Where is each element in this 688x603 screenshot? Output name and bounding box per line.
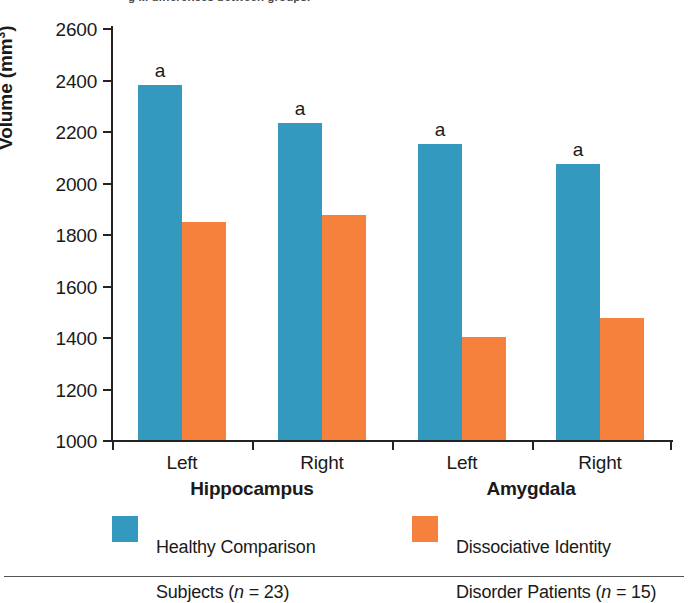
x-axis-label-amygdala-left: Left: [412, 452, 512, 474]
y-tick-label-2600: 2600: [56, 19, 97, 41]
y-axis-title-tail: ): [0, 26, 16, 32]
bar-healthy-amygdala-right[interactable]: [556, 164, 600, 440]
y-tick-1200: 1200: [103, 389, 112, 391]
bar-healthy-hippocampus-left[interactable]: [138, 85, 182, 440]
legend-label-healthy: Healthy Comparison Subjects (n = 23): [156, 513, 315, 603]
bar-healthy-amygdala-left[interactable]: [418, 144, 462, 440]
y-tick-label-2000: 2000: [56, 174, 97, 196]
y-tick-2600: 2600: [103, 28, 112, 30]
legend-label-healthy-line2-pre: Subjects (: [156, 582, 234, 602]
x-axis-label-amygdala-right: Right: [550, 452, 650, 474]
y-tick-2200: 2200: [103, 131, 112, 133]
significance-mark-hippocampus-right: a: [278, 99, 322, 118]
legend-label-healthy-line1: Healthy Comparison: [156, 537, 315, 557]
legend-entry-did[interactable]: Dissociative Identity Disorder Patients …: [412, 513, 656, 603]
bar-did-amygdala-right[interactable]: [600, 318, 644, 440]
legend-swatch-healthy: [112, 516, 138, 542]
significance-mark-hippocampus-left: a: [138, 61, 182, 80]
y-axis-title: Volume (mm3): [0, 26, 17, 150]
y-tick-2000: 2000: [103, 183, 112, 185]
y-tick-label-2200: 2200: [56, 122, 97, 144]
legend-label-healthy-n: n: [234, 582, 244, 602]
legend-label-did: Dissociative Identity Disorder Patients …: [456, 513, 656, 603]
y-tick-label-1600: 1600: [56, 277, 97, 299]
legend-label-did-n: n: [601, 582, 611, 602]
legend-label-did-line1: Dissociative Identity: [456, 537, 611, 557]
x-tick-4: [670, 440, 672, 450]
bar-did-hippocampus-left[interactable]: [182, 222, 226, 440]
y-tick-label-1200: 1200: [56, 380, 97, 402]
y-axis-title-main: Volume (mm: [0, 38, 16, 150]
y-tick-label-1800: 1800: [56, 225, 97, 247]
y-axis-title-superscript: 3: [0, 32, 8, 39]
bar-did-hippocampus-right[interactable]: [322, 215, 366, 440]
legend-label-healthy-line2-post: = 23): [244, 582, 289, 602]
y-tick-label-2400: 2400: [56, 71, 97, 93]
x-tick-3: [532, 440, 534, 450]
significance-mark-amygdala-left: a: [418, 120, 462, 139]
significance-mark-amygdala-right: a: [556, 140, 600, 159]
plot-area: 2600 2400 2200 2000 1800 1600 1400 1200 …: [112, 28, 672, 440]
y-tick-1400: 1400: [103, 337, 112, 339]
bar-did-amygdala-left[interactable]: [462, 337, 506, 440]
bar-healthy-hippocampus-right[interactable]: [278, 123, 322, 440]
x-tick-1: [252, 440, 254, 450]
chart-legend: Healthy Comparison Subjects (n = 23) Dis…: [112, 513, 672, 567]
y-tick-label-1000: 1000: [56, 431, 97, 453]
x-axis-label-hippocampus-right: Right: [272, 452, 372, 474]
y-tick-1600: 1600: [103, 286, 112, 288]
y-tick-1800: 1800: [103, 234, 112, 236]
legend-entry-healthy[interactable]: Healthy Comparison Subjects (n = 23): [112, 513, 315, 603]
x-tick-0: [112, 440, 114, 450]
x-axis-group-label-hippocampus: Hippocampus: [162, 478, 342, 500]
y-tick-1000: 1000: [103, 440, 112, 442]
y-tick-2400: 2400: [103, 80, 112, 82]
figure-bottom-rule: [4, 576, 684, 577]
x-axis-group-label-amygdala: Amygdala: [441, 478, 621, 500]
x-axis-label-hippocampus-left: Left: [132, 452, 232, 474]
x-tick-2: [392, 440, 394, 450]
legend-label-did-line2-pre: Disorder Patients (: [456, 582, 601, 602]
legend-swatch-did: [412, 516, 438, 542]
legend-label-did-line2-post: = 15): [611, 582, 656, 602]
y-tick-label-1400: 1400: [56, 328, 97, 350]
